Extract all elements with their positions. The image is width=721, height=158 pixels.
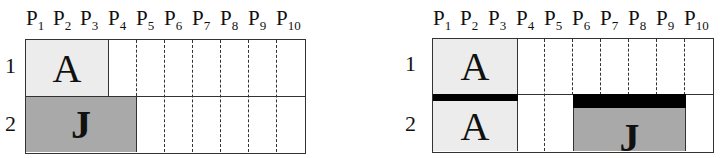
job-label: J: [71, 101, 91, 148]
processor-letter: P: [656, 6, 668, 30]
processor-label-p9: P9: [656, 8, 674, 29]
row-label-1: 1: [405, 53, 416, 75]
processor-letter: P: [108, 6, 120, 30]
processor-letter: P: [684, 6, 696, 30]
processor-index: 2: [472, 18, 479, 33]
job-label: A: [461, 103, 490, 150]
row-label-1: 1: [5, 55, 16, 77]
processor-label-p8: P8: [628, 8, 646, 29]
schedule-grid: A A J: [432, 38, 714, 153]
processor-letter: P: [600, 6, 612, 30]
processor-index: 7: [612, 18, 619, 33]
processor-index: 10: [696, 18, 709, 33]
processor-letter: P: [516, 6, 528, 30]
processor-index: 5: [556, 18, 563, 33]
processor-label-p5: P5: [136, 8, 154, 29]
column-divider: [656, 39, 657, 95]
job-block-a: A: [433, 101, 518, 151]
left-schedule-diagram: P1 P2 P3 P4 P5 P6 P7 P8 P9 P10 1 2 A J: [0, 0, 320, 158]
reservation-bar: [433, 94, 518, 101]
processor-label-p1: P1: [433, 8, 451, 29]
processor-letter: P: [248, 6, 260, 30]
job-block-a: A: [26, 40, 109, 96]
processor-index: 9: [260, 18, 267, 33]
row-label-2: 2: [405, 113, 416, 135]
processor-letter: P: [276, 6, 288, 30]
processor-index: 6: [176, 18, 183, 33]
column-divider: [600, 39, 601, 95]
processor-index: 10: [288, 18, 301, 33]
job-label: J: [620, 114, 640, 158]
processor-index: 4: [528, 18, 535, 33]
processor-label-p4: P4: [108, 8, 126, 29]
processor-label-p2: P2: [53, 8, 71, 29]
reservation-bar: [573, 94, 686, 108]
processor-letter: P: [192, 6, 204, 30]
processor-index: 6: [584, 18, 591, 33]
processor-label-p9: P9: [248, 8, 266, 29]
column-divider: [136, 40, 137, 96]
processor-label-p7: P7: [600, 8, 618, 29]
processor-letter: P: [26, 6, 38, 30]
processor-label-p5: P5: [544, 8, 562, 29]
processor-letter: P: [433, 6, 445, 30]
processor-index: 3: [92, 18, 99, 33]
processor-letter: P: [53, 6, 65, 30]
processor-index: 4: [120, 18, 127, 33]
processor-label-p3: P3: [488, 8, 506, 29]
processor-index: 1: [38, 18, 45, 33]
column-divider: [544, 39, 545, 151]
processor-index: 3: [500, 18, 507, 33]
processor-label-p7: P7: [192, 8, 210, 29]
job-block-j: J: [26, 97, 137, 152]
processor-label-p6: P6: [164, 8, 182, 29]
processor-label-p2: P2: [460, 8, 478, 29]
processor-letter: P: [488, 6, 500, 30]
processor-index: 5: [148, 18, 155, 33]
column-divider: [628, 39, 629, 95]
processor-index: 1: [445, 18, 452, 33]
processor-index: 2: [65, 18, 72, 33]
processor-letter: P: [136, 6, 148, 30]
processor-index: 9: [668, 18, 675, 33]
processor-label-p8: P8: [220, 8, 238, 29]
processor-letter: P: [572, 6, 584, 30]
processor-label-p6: P6: [572, 8, 590, 29]
processor-letter: P: [164, 6, 176, 30]
processor-label-p4: P4: [516, 8, 534, 29]
job-label: A: [461, 43, 490, 90]
column-divider: [572, 39, 573, 95]
schedule-grid: A J: [25, 39, 306, 154]
job-block-j: J: [573, 108, 686, 151]
processor-letter: P: [220, 6, 232, 30]
processor-label-p3: P3: [80, 8, 98, 29]
row-label-2: 2: [5, 113, 16, 135]
processor-index: 7: [204, 18, 211, 33]
processor-index: 8: [640, 18, 647, 33]
processor-letter: P: [544, 6, 556, 30]
processor-letter: P: [628, 6, 640, 30]
right-schedule-diagram: P1 P2 P3 P4 P5 P6 P7 P8 P9 P10 1 2 A A J: [400, 0, 721, 158]
processor-label-p10: P10: [684, 8, 709, 29]
job-label: A: [53, 45, 82, 92]
processor-letter: P: [460, 6, 472, 30]
processor-index: 8: [232, 18, 239, 33]
job-block-a: A: [433, 39, 518, 94]
processor-letter: P: [80, 6, 92, 30]
processor-label-p10: P10: [276, 8, 301, 29]
column-divider: [684, 39, 685, 95]
processor-label-p1: P1: [26, 8, 44, 29]
